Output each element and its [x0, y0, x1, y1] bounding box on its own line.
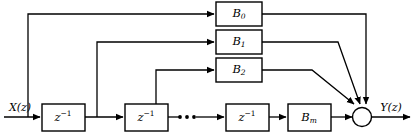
fir-filter-block-diagram: z−1 z−1 z−1 B0 B1 B2 Bm X(z) Y(z) [0, 0, 414, 138]
wire-coef-b2-to-sum [262, 70, 354, 104]
summing-junction[interactable] [353, 108, 372, 127]
delay-block-group [42, 104, 269, 131]
input-label: X(z) [8, 101, 31, 114]
wire-coef-b0-to-sum [262, 14, 366, 104]
ellipsis-dot-3 [192, 115, 196, 119]
ellipsis-dot-1 [178, 115, 182, 119]
coefficient-output-wires [262, 14, 366, 104]
wire-coef-b1-to-sum [262, 42, 360, 104]
tap-branches [28, 14, 214, 117]
ellipsis-dots [178, 115, 196, 119]
ellipsis-dot-2 [185, 115, 189, 119]
output-label: Y(z) [380, 101, 402, 114]
diagram-canvas: z−1 z−1 z−1 B0 B1 B2 Bm X(z) Y(z) [0, 0, 414, 138]
tap-branch-b0 [28, 14, 214, 117]
